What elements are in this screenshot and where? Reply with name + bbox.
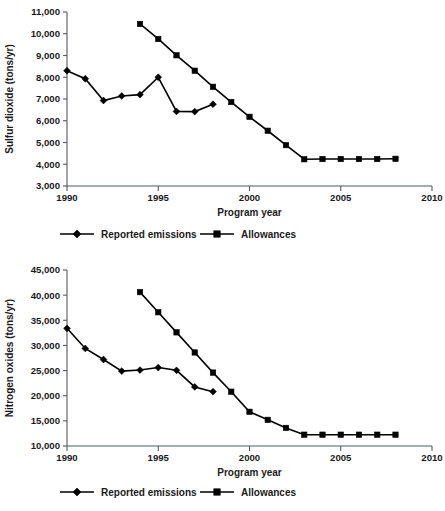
- data-point-marker-square: [192, 350, 197, 355]
- x-tick-label: 2005: [330, 192, 352, 203]
- data-point-marker-square: [210, 370, 215, 375]
- x-tick-label: 2000: [239, 192, 260, 203]
- x-tick-label: 1990: [56, 192, 77, 203]
- data-point-marker-square: [174, 330, 179, 335]
- y-tick-label: 4,000: [36, 159, 60, 170]
- x-tick-label: 2005: [330, 452, 352, 463]
- y-tick-label: 5,000: [36, 137, 60, 148]
- legend-marker-square: [214, 489, 220, 495]
- chart-nitrogen-oxides: 10,00015,00020,00025,00030,00035,00040,0…: [0, 256, 445, 511]
- series-line-reported-emissions: [67, 328, 213, 391]
- data-point-marker-diamond: [64, 67, 71, 74]
- data-point-marker-square: [137, 21, 142, 26]
- nitrogen-oxides-plot: 10,00015,00020,00025,00030,00035,00040,0…: [0, 256, 445, 511]
- x-tick-label: 2000: [239, 452, 260, 463]
- y-tick-label: 15,000: [31, 415, 60, 426]
- y-tick-label: 35,000: [31, 315, 60, 326]
- legend-label-allowances: Allowances: [241, 487, 296, 498]
- x-tick-label: 2010: [421, 192, 442, 203]
- data-point-marker-diamond: [155, 364, 162, 371]
- data-point-marker-square: [375, 432, 380, 437]
- y-tick-label: 8,000: [36, 72, 60, 83]
- legend-label-reported-emissions: Reported emissions: [101, 487, 197, 498]
- data-point-marker-diamond: [118, 93, 125, 100]
- data-point-marker-square: [229, 389, 234, 394]
- data-point-marker-diamond: [210, 101, 217, 108]
- data-point-marker-square: [247, 409, 252, 414]
- y-tick-label: 45,000: [31, 264, 60, 275]
- y-tick-label: 7,000: [36, 93, 60, 104]
- series-line-allowances: [140, 24, 396, 159]
- data-point-marker-square: [210, 84, 215, 89]
- x-axis-title: Program year: [217, 467, 282, 478]
- data-point-marker-square: [338, 432, 343, 437]
- data-point-marker-square: [302, 157, 307, 162]
- data-point-marker-diamond: [191, 108, 198, 115]
- y-axis-title: Sulfur dioxide (tons/yr): [4, 44, 15, 153]
- data-point-marker-square: [229, 99, 234, 104]
- y-axis-title: Nitrogen oxides (tons/yr): [4, 299, 15, 417]
- data-point-marker-square: [375, 156, 380, 161]
- data-point-marker-diamond: [210, 388, 217, 395]
- sulfur-dioxide-plot: 3,0004,0005,0006,0007,0008,0009,00010,00…: [0, 0, 445, 256]
- y-tick-label: 30,000: [31, 340, 60, 351]
- legend-label-allowances: Allowances: [241, 229, 296, 240]
- y-tick-label: 10,000: [31, 28, 60, 39]
- figure-two-panel-line-charts: 3,0004,0005,0006,0007,0008,0009,00010,00…: [0, 0, 445, 511]
- data-point-marker-diamond: [173, 108, 180, 115]
- x-tick-label: 1995: [148, 452, 170, 463]
- x-axis-title: Program year: [217, 207, 282, 218]
- data-point-marker-square: [137, 289, 142, 294]
- y-tick-label: 11,000: [31, 6, 60, 17]
- y-tick-label: 6,000: [36, 115, 60, 126]
- x-tick-label: 1995: [148, 192, 170, 203]
- x-tick-label: 1990: [56, 452, 77, 463]
- data-point-marker-square: [320, 432, 325, 437]
- data-point-marker-square: [356, 432, 361, 437]
- y-tick-label: 40,000: [31, 290, 60, 301]
- data-point-marker-square: [283, 425, 288, 430]
- y-tick-label: 10,000: [31, 440, 60, 451]
- data-point-marker-square: [393, 432, 398, 437]
- chart-sulfur-dioxide: 3,0004,0005,0006,0007,0008,0009,00010,00…: [0, 0, 445, 256]
- data-point-marker-square: [156, 36, 161, 41]
- legend-label-reported-emissions: Reported emissions: [101, 229, 197, 240]
- data-point-marker-square: [265, 128, 270, 133]
- data-point-marker-square: [192, 68, 197, 73]
- legend-marker-diamond: [73, 488, 81, 496]
- y-tick-label: 9,000: [36, 50, 60, 61]
- data-point-marker-square: [174, 53, 179, 58]
- data-point-marker-square: [265, 417, 270, 422]
- data-point-marker-square: [156, 310, 161, 315]
- data-point-marker-square: [393, 156, 398, 161]
- y-tick-label: 25,000: [31, 365, 60, 376]
- legend-marker-diamond: [73, 230, 81, 238]
- data-point-marker-square: [247, 114, 252, 119]
- data-point-marker-square: [356, 156, 361, 161]
- data-point-marker-square: [320, 156, 325, 161]
- data-point-marker-square: [302, 432, 307, 437]
- data-point-marker-square: [338, 156, 343, 161]
- data-point-marker-square: [283, 142, 288, 147]
- data-point-marker-diamond: [137, 367, 144, 374]
- y-tick-label: 3,000: [36, 180, 60, 191]
- y-tick-label: 20,000: [31, 390, 60, 401]
- series-line-allowances: [140, 292, 396, 435]
- legend-marker-square: [214, 231, 220, 237]
- x-tick-label: 2010: [421, 452, 442, 463]
